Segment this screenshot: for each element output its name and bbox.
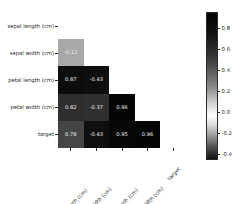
y-axis-tick-label: sepal length (cm) <box>7 12 58 39</box>
heatmap-row: petal length (cm)0.87-0.43 <box>58 66 186 93</box>
heatmap-plot-area: sepal length (cm)sepal width (cm)-0.12pe… <box>58 12 186 148</box>
heatmap-row: petal width (cm)0.82-0.370.96 <box>58 94 186 121</box>
x-axis-tick-mark <box>70 148 71 151</box>
heatmap-cell: 0.78 <box>58 121 84 148</box>
colorbar-tick-label: 0.4 <box>222 68 230 73</box>
y-axis-tick-label: petal length (cm) <box>8 66 58 93</box>
heatmap-cell: -0.43 <box>84 121 110 148</box>
colorbar-tick-label: -0.4 <box>222 152 232 157</box>
y-axis-tick-label: sepal width (cm) <box>10 39 58 66</box>
heatmap-cell: 0.96 <box>135 121 161 148</box>
heatmap-cell-value: 0.82 <box>65 105 77 110</box>
heatmap-cell-value: -0.37 <box>90 105 104 110</box>
heatmap-cell: 0.82 <box>58 94 84 121</box>
heatmap-cell: 0.95 <box>109 121 135 148</box>
heatmap-cell: 0.96 <box>109 94 135 121</box>
colorbar-tick-label: 0.8 <box>222 26 230 31</box>
heatmap-cell-value: -0.12 <box>64 50 78 55</box>
heatmap-cell: -0.43 <box>84 66 110 93</box>
heatmap-row: sepal length (cm) <box>58 12 186 39</box>
colorbar-tick-mark <box>218 28 220 29</box>
colorbar-tick-mark <box>218 49 220 50</box>
colorbar-tick-mark <box>218 133 220 134</box>
heatmap-row: sepal width (cm)-0.12 <box>58 39 186 66</box>
x-axis-tick-label-text: sepal length (cm) <box>51 186 89 204</box>
colorbar-tick-mark <box>218 70 220 71</box>
colorbar-tick-label: 0.2 <box>222 89 230 94</box>
colorbar-tick-label: 0.6 <box>222 47 230 52</box>
colorbar-tick-mark <box>218 112 220 113</box>
heatmap-row: target0.78-0.430.950.96 <box>58 121 186 148</box>
y-axis-tick-label: target <box>38 121 58 148</box>
x-axis-tick-mark <box>173 148 174 151</box>
x-axis-tick-mark <box>122 148 123 151</box>
colorbar: 0.80.60.40.20.0-0.2-0.4 <box>206 12 218 160</box>
correlation-heatmap-figure: sepal length (cm)sepal width (cm)-0.12pe… <box>0 0 247 204</box>
y-axis-tick-label: petal width (cm) <box>10 94 58 121</box>
heatmap-cell: -0.12 <box>58 39 84 66</box>
heatmap-cell-value: -0.43 <box>90 132 104 137</box>
heatmap-cell-value: 0.78 <box>65 132 77 137</box>
colorbar-tick-label: -0.2 <box>222 131 232 136</box>
heatmap-cell-value: -0.43 <box>90 77 104 82</box>
colorbar-tick-mark <box>218 154 220 155</box>
heatmap-cell: -0.37 <box>84 94 110 121</box>
x-axis-tick-mark <box>147 148 148 151</box>
colorbar-tick-label: 0.0 <box>222 110 230 115</box>
heatmap-cell-value: 0.96 <box>142 132 154 137</box>
heatmap-cell-value: 0.95 <box>116 132 128 137</box>
heatmap-cell-value: 0.96 <box>116 105 128 110</box>
x-axis-tick-mark <box>96 148 97 151</box>
x-axis-tick-labels: sepal length (cm)sepal width (cm)petal l… <box>58 148 186 204</box>
heatmap-cell-value: 0.87 <box>65 77 77 82</box>
colorbar-gradient <box>206 12 218 160</box>
heatmap-cell: 0.87 <box>58 66 84 93</box>
colorbar-tick-mark <box>218 91 220 92</box>
